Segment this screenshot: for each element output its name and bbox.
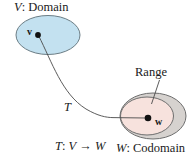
mapping-label-T: T (55, 139, 62, 153)
codomain-label-symbol: W (116, 141, 126, 155)
diagram-canvas (0, 0, 195, 161)
point-w (145, 115, 152, 122)
point-v (35, 32, 41, 38)
mapping-label-W: W (95, 139, 105, 153)
linear-transformation-diagram: V: Domain Range W: Codomain T: V → W T v… (0, 0, 195, 161)
mapping-label-arrow: → (76, 139, 95, 153)
mapping-label-colon: : (62, 139, 69, 153)
domain-label: V: Domain (14, 1, 69, 14)
vector-v-label: v (27, 27, 32, 37)
codomain-label: W: Codomain (116, 142, 185, 155)
domain-label-text: : Domain (22, 0, 69, 14)
range-label: Range (135, 66, 167, 79)
transformation-curve-label: T (64, 101, 71, 114)
mapping-label: T: V → W (55, 140, 105, 153)
domain-ellipse (16, 16, 80, 55)
domain-label-symbol: V (14, 0, 22, 14)
codomain-label-text: : Codomain (126, 141, 185, 155)
vector-w-label: w (155, 117, 162, 127)
